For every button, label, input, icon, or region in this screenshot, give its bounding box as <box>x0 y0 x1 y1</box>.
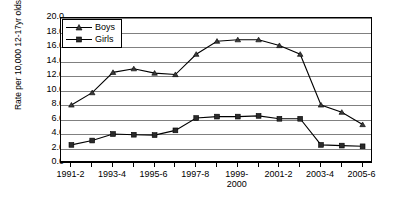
x-axis-tick <box>341 162 342 167</box>
girls-marker-icon <box>66 34 92 45</box>
data-point-girls <box>256 113 261 118</box>
data-point-girls <box>131 132 136 137</box>
y-axis-tick-label: 18.0 <box>24 27 64 36</box>
x-axis-tick <box>154 162 155 167</box>
x-axis-tick <box>278 162 279 167</box>
legend: Boys Girls <box>62 19 122 48</box>
y-axis-tick-label: 10.0 <box>24 85 64 94</box>
y-axis-tick-label: 8.0 <box>24 99 64 108</box>
data-point-boys <box>318 102 324 107</box>
legend-item-boys: Boys <box>66 22 115 33</box>
data-point-girls <box>173 128 178 133</box>
data-point-girls <box>194 116 199 121</box>
data-point-boys <box>69 102 75 107</box>
x-axis-tick <box>195 162 196 167</box>
y-axis-tick-label: 14.0 <box>24 56 64 65</box>
x-axis-tick <box>237 162 238 167</box>
legend-label-boys: Boys <box>95 23 115 32</box>
x-axis-tick <box>258 162 259 167</box>
series-line-girls <box>71 116 362 146</box>
data-point-girls <box>111 132 116 137</box>
y-axis-tick-label: 12.0 <box>24 70 64 79</box>
y-axis-tick-label: 2.0 <box>24 143 64 152</box>
y-axis-tick-label: 4.0 <box>24 128 64 137</box>
x-axis-tick <box>320 162 321 167</box>
line-chart: Rate per 10,000 12-17yr olds 20.018.016.… <box>0 0 398 199</box>
data-point-girls <box>298 116 303 121</box>
data-point-girls <box>235 114 240 119</box>
data-point-girls <box>90 138 95 143</box>
series-line-boys <box>71 40 362 125</box>
x-axis-tick <box>216 162 217 167</box>
x-axis-tick <box>133 162 134 167</box>
x-axis-tick <box>112 162 113 167</box>
data-point-girls <box>277 116 282 121</box>
x-axis-tick-label: 2005-6 <box>332 170 392 180</box>
y-axis-tick-label: 6.0 <box>24 114 64 123</box>
data-point-girls <box>339 143 344 148</box>
data-point-girls <box>360 144 365 149</box>
boys-marker-icon <box>66 22 92 33</box>
x-axis-ticks <box>60 162 372 168</box>
data-point-girls <box>319 142 324 147</box>
x-axis-tick <box>70 162 71 167</box>
y-axis-tick-label: 16.0 <box>24 41 64 50</box>
data-point-girls <box>215 114 220 119</box>
y-axis-title: Rate per 10,000 12-17yr olds <box>13 0 23 125</box>
legend-item-girls: Girls <box>66 34 115 45</box>
data-point-boys <box>360 122 366 127</box>
x-axis-tick <box>91 162 92 167</box>
data-point-girls <box>152 133 157 138</box>
x-axis-tick <box>362 162 363 167</box>
data-point-boys <box>193 52 199 57</box>
x-axis-tick <box>174 162 175 167</box>
legend-label-girls: Girls <box>95 35 114 44</box>
data-point-girls <box>69 142 74 147</box>
x-axis-tick <box>299 162 300 167</box>
y-axis-tick-label: 20.0 <box>24 12 64 21</box>
data-point-boys <box>131 66 137 71</box>
y-axis-tick-label: 0.0 <box>24 157 64 166</box>
